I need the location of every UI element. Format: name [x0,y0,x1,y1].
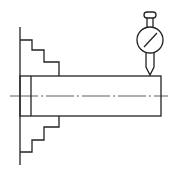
dial-needle [144,33,157,47]
indicator-knob [144,12,156,18]
indicator-probe [146,53,154,75]
lower-jaw [20,116,59,152]
diagram-canvas [0,0,170,173]
dial-indicator [137,12,163,75]
upper-jaw [20,40,59,76]
